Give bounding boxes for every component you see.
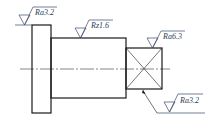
roughness-label: Ra3.2 (179, 96, 199, 105)
roughness-symbol-leader: Ra3.2 (142, 90, 205, 114)
roughness-symbol-square: Ra6.3 (147, 31, 185, 48)
roughness-symbol-shaft: Rz1.6 (75, 20, 113, 38)
roughness-symbol-flange: Ra3.2 (15, 7, 57, 25)
shaft-body (51, 38, 126, 98)
roughness-label: Ra3.2 (34, 8, 54, 17)
roughness-label: Rz1.6 (90, 21, 109, 30)
roughness-label: Ra6.3 (162, 32, 182, 41)
technical-drawing: Ra3.2 Rz1.6 Ra6.3 Ra3.2 (0, 0, 215, 121)
